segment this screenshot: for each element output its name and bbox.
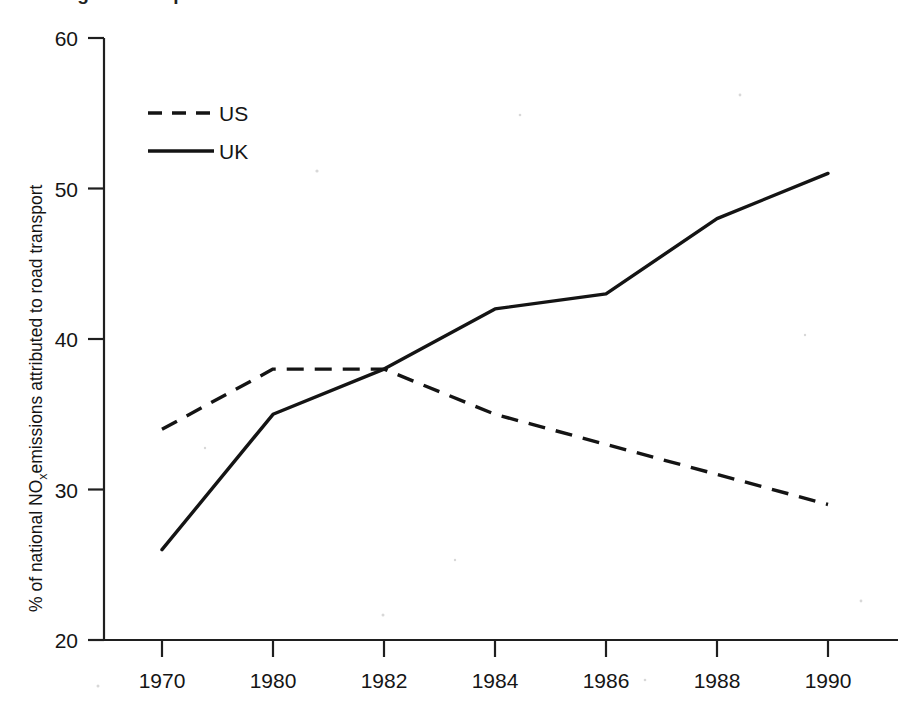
y-axis-title: % of national NOxemissions attributed to… — [26, 184, 50, 612]
legend-entry-us: US — [148, 102, 248, 125]
y-tick-label: 40 — [55, 328, 78, 351]
x-tick-label: 1970 — [139, 669, 186, 692]
x-axis-ticks — [162, 640, 828, 657]
x-tick-label: 1988 — [694, 669, 741, 692]
chart-legend: US UK — [148, 102, 248, 163]
x-tick-label: 1984 — [472, 669, 519, 692]
scan-speckles — [97, 94, 863, 688]
y-axis-tick-labels: 60 50 40 30 20 — [55, 27, 78, 652]
y-tick-label: 30 — [55, 479, 78, 502]
y-axis-title-part-1: % of national NO — [26, 480, 46, 612]
y-axis-ticks — [88, 38, 104, 640]
legend-entry-uk: UK — [148, 140, 248, 163]
y-tick-label: 20 — [55, 629, 78, 652]
legend-label-us: US — [219, 102, 248, 125]
x-axis-tick-labels: 1970 1980 1982 1984 1986 1988 1990 — [139, 669, 852, 692]
x-tick-label: 1990 — [805, 669, 852, 692]
x-tick-label: 1980 — [250, 669, 297, 692]
legend-label-uk: UK — [219, 140, 248, 163]
series-line-us — [162, 369, 828, 504]
y-tick-label: 60 — [55, 27, 78, 50]
x-tick-label: 1982 — [361, 669, 408, 692]
svg-text:% of national NOxemissions att: % of national NOxemissions attributed to… — [26, 184, 50, 612]
y-tick-label: 50 — [55, 178, 78, 201]
x-tick-label: 1986 — [583, 669, 630, 692]
series-line-uk — [162, 173, 828, 549]
line-chart: 60 50 40 30 20 1970 1980 1982 1984 1986 … — [0, 0, 912, 710]
y-axis-title-part-2: emissions attributed to road transport — [26, 184, 46, 473]
